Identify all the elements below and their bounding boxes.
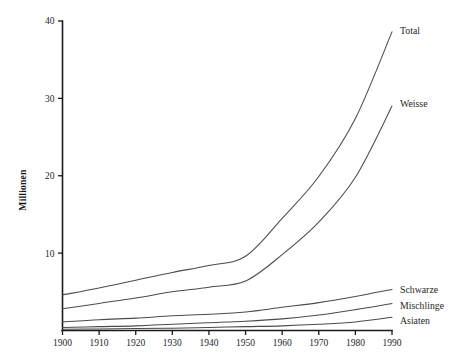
axes-group xyxy=(62,21,392,331)
x-tick-label: 1920 xyxy=(126,338,145,348)
y-tick-label: 40 xyxy=(45,16,55,26)
x-tick-label: 1980 xyxy=(346,338,365,348)
x-tick-label: 1960 xyxy=(273,338,292,348)
series-label-schwarze: Schwarze xyxy=(400,284,439,295)
x-tick-label: 1930 xyxy=(163,338,182,348)
y-axis-ticks: 10203040 xyxy=(45,16,63,258)
series-line-mischlinge xyxy=(63,303,393,327)
series-line-weisse xyxy=(63,106,393,309)
x-tick-label: 1910 xyxy=(90,338,109,348)
series-label-total: Total xyxy=(400,25,420,36)
series-line-total xyxy=(63,32,393,295)
x-tick-label: 1970 xyxy=(309,338,328,348)
x-tick-label: 1900 xyxy=(53,338,72,348)
line-chart-svg: 10203040 1900191019201930194019501960197… xyxy=(0,0,465,363)
y-tick-label: 20 xyxy=(45,171,55,181)
series-label-weisse: Weisse xyxy=(400,98,428,109)
chart-container: 10203040 1900191019201930194019501960197… xyxy=(0,0,465,363)
x-axis-ticks: 1900191019201930194019501960197019801990 xyxy=(53,331,402,349)
series-lines-group xyxy=(63,32,393,330)
series-line-schwarze xyxy=(63,289,393,322)
x-tick-label: 1950 xyxy=(236,338,255,348)
series-labels-group: TotalWeisseSchwarzeMischlingeAsiaten xyxy=(400,25,445,326)
series-label-asiaten: Asiaten xyxy=(400,315,430,326)
x-tick-label: 1990 xyxy=(383,338,402,348)
y-tick-label: 10 xyxy=(45,249,55,259)
y-axis-title: Millionen xyxy=(17,169,28,211)
series-label-mischlinge: Mischlinge xyxy=(400,300,445,311)
x-tick-label: 1940 xyxy=(199,338,218,348)
y-tick-label: 30 xyxy=(45,94,55,104)
